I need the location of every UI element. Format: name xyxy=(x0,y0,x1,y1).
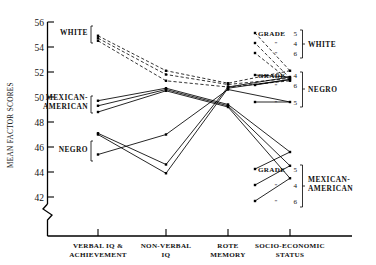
y-axis-break-icon xyxy=(43,204,52,236)
data-point-marker xyxy=(165,172,167,174)
legend-mex-grade-5: 5 xyxy=(293,166,297,174)
y-tick-50: 50 xyxy=(35,93,45,103)
x-label-verbal-iq-line2: ACHIEVEMENT xyxy=(69,251,127,259)
data-point-marker xyxy=(97,133,99,135)
left-label-negro: NEGRO xyxy=(59,145,88,154)
legend-mex-title-line2: AMERICAN xyxy=(308,184,353,193)
legend-mex-ditto-1: " xyxy=(275,182,278,190)
y-tick-44: 44 xyxy=(35,168,45,178)
legend-mex-title-line1: MEXICAN- xyxy=(308,175,350,184)
legend-leader-lines xyxy=(254,32,290,202)
x-label-nonverbal-iq-line1: NON-VERBAL xyxy=(141,242,192,250)
legend-anchor-marker xyxy=(254,74,256,76)
x-label-ses-line2: STATUS xyxy=(276,251,304,259)
legend-negro-ditto-1: " xyxy=(275,82,278,90)
legend-white-ditto-1: " xyxy=(275,40,278,48)
data-point-marker xyxy=(227,106,229,108)
bracket-white xyxy=(91,26,93,43)
left-label-white: WHITE xyxy=(60,28,88,37)
legend-mexican-american[interactable]: GRADE 5 " 4 " 6 MEXICAN- AMERICAN xyxy=(258,165,353,207)
legend-negro-grade-4: 4 xyxy=(293,72,297,80)
data-point-marker xyxy=(97,35,99,37)
series-layer xyxy=(97,35,291,180)
series-line xyxy=(98,41,290,87)
legend-negro-grade-6: 6 xyxy=(293,82,297,90)
legend-white-title: WHITE xyxy=(308,40,336,49)
legend-white-grade-5: 5 xyxy=(293,30,297,38)
x-label-verbal-iq-line1: VERBAL IQ & xyxy=(73,242,123,250)
left-label-mexican: MEXICAN- xyxy=(46,93,88,102)
series-line xyxy=(98,90,290,166)
data-point-marker xyxy=(97,37,99,39)
legend-negro-title: NEGRO xyxy=(308,85,337,94)
series-line xyxy=(98,80,290,174)
legend-mex-grade-word: GRADE xyxy=(258,166,285,174)
legend-anchor-marker xyxy=(254,200,256,202)
chart-figure: 56 54 52 50 48 46 44 42 MEAN FACTOR SCOR… xyxy=(0,0,376,265)
legend-leader-line xyxy=(255,33,290,71)
legend-anchor-marker xyxy=(254,84,256,86)
x-axis xyxy=(48,229,353,236)
legend-mex-grade-4: 4 xyxy=(293,182,297,190)
y-axis xyxy=(43,22,54,236)
bracket-negro xyxy=(91,141,93,161)
data-point-marker xyxy=(165,80,167,82)
legend-negro-ditto-2: " xyxy=(275,99,278,107)
left-group-labels: WHITE MEXICAN- AMERICAN NEGRO xyxy=(43,26,93,161)
y-tick-54: 54 xyxy=(35,43,45,53)
bracket-legend-mexican xyxy=(300,165,305,207)
x-label-nonverbal-iq-line2: IQ xyxy=(162,251,171,259)
data-point-marker xyxy=(227,83,229,85)
data-point-marker xyxy=(165,90,167,92)
legend-white-grade-6: 6 xyxy=(293,50,297,58)
legend-white[interactable]: GRADE 5 " 4 " 6 WHITE xyxy=(258,30,336,58)
legend-anchor-marker xyxy=(254,42,256,44)
legend-mex-ditto-2: " xyxy=(275,198,278,206)
legend-mex-grade-6: 6 xyxy=(293,198,297,206)
y-tick-48: 48 xyxy=(35,118,45,128)
data-point-marker xyxy=(165,70,167,72)
data-point-marker xyxy=(97,100,99,102)
data-point-marker xyxy=(165,73,167,75)
data-point-marker xyxy=(97,105,99,107)
legend-anchor-marker xyxy=(254,101,256,103)
legend-anchor-marker xyxy=(254,32,256,34)
data-point-marker xyxy=(97,153,99,155)
data-point-marker xyxy=(97,111,99,113)
data-point-marker xyxy=(165,163,167,165)
x-label-rote-memory-line1: ROTE xyxy=(217,242,238,250)
line-chart-svg: 56 54 52 50 48 46 44 42 MEAN FACTOR SCOR… xyxy=(0,0,376,265)
data-point-marker xyxy=(165,133,167,135)
bracket-legend-white xyxy=(300,30,305,58)
bracket-mexican-american xyxy=(91,96,93,113)
y-axis-title: MEAN FACTOR SCORES xyxy=(7,82,15,168)
bracket-legend-negro xyxy=(300,72,305,107)
legend-anchor-marker xyxy=(254,184,256,186)
legend-white-grade-word: GRADE xyxy=(258,30,285,38)
y-tick-56: 56 xyxy=(35,18,45,28)
data-point-marker xyxy=(227,88,229,90)
x-label-ses-line1: SOCIO-ECONOMIC xyxy=(255,242,325,250)
y-tick-52: 52 xyxy=(35,68,45,78)
legend-anchor-marker xyxy=(254,168,256,170)
y-tick-42: 42 xyxy=(35,193,45,203)
legend-anchor-marker xyxy=(254,52,256,54)
legend-negro-grade-5: 5 xyxy=(293,99,297,107)
x-label-rote-memory-line2: MEMORY xyxy=(210,251,245,259)
legend-white-grade-4: 4 xyxy=(293,40,297,48)
x-tick-labels: VERBAL IQ & ACHIEVEMENT NON-VERBAL IQ RO… xyxy=(69,242,325,259)
data-point-marker xyxy=(97,40,99,42)
y-tick-46: 46 xyxy=(35,143,45,153)
left-label-american: AMERICAN xyxy=(43,102,88,111)
